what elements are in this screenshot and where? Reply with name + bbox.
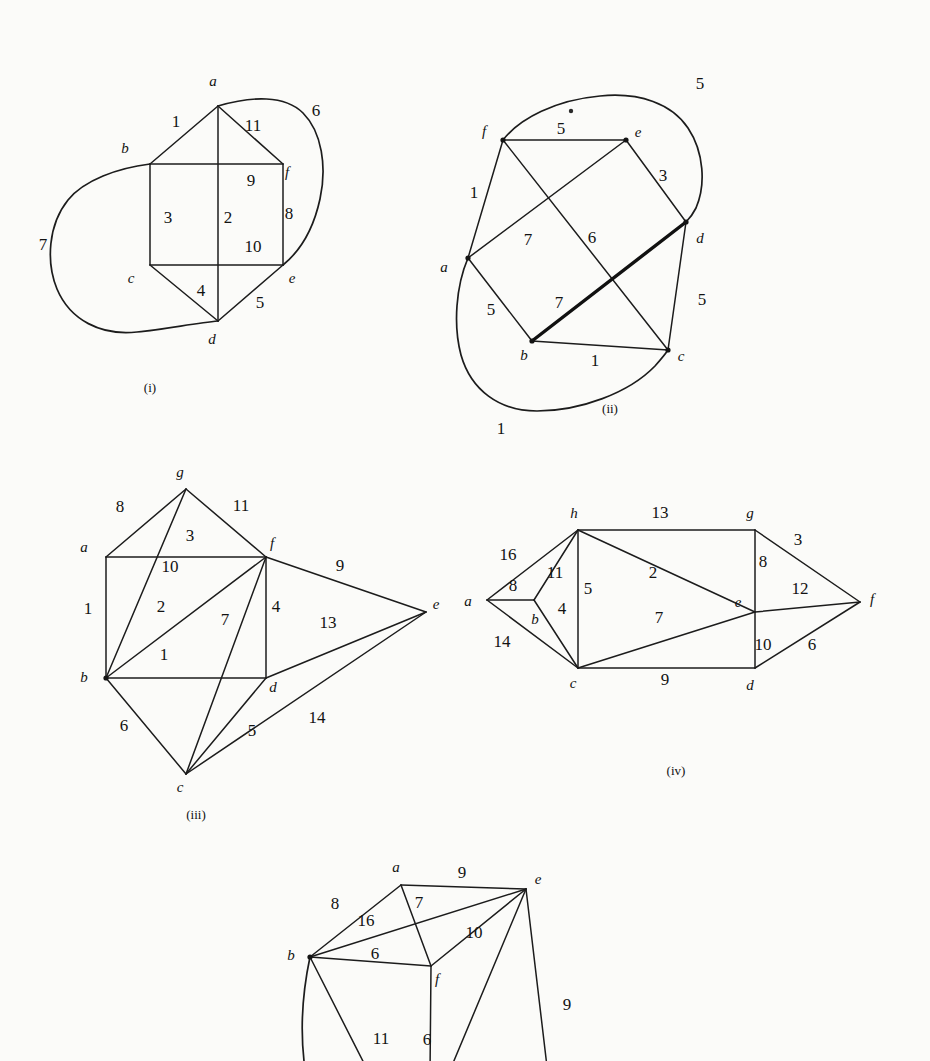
edge-v-ex3 — [526, 889, 548, 1061]
edge-iii-gf — [186, 489, 266, 557]
edge-iii-fe — [266, 557, 426, 612]
edge-weight-iii-ce: 14 — [309, 708, 327, 727]
edge-i-cd — [150, 265, 218, 321]
vertex-label-ii-e: e — [635, 124, 642, 140]
edge-weight-ii-fe: 5 — [557, 119, 566, 138]
edge-weight-iv-bc: 4 — [558, 599, 567, 618]
edge-weight-ii-bc: 1 — [591, 351, 600, 370]
edge-iii-fc — [186, 557, 266, 774]
vertex-label-iii-a: a — [80, 539, 88, 555]
edge-weight-i-af: 11 — [245, 116, 261, 135]
edge-ii-ab — [468, 258, 532, 341]
vertex-label-iii-f: f — [270, 535, 276, 551]
vertex-label-i-a: a — [209, 73, 217, 89]
vertex-dot-v-b — [307, 954, 312, 959]
edge-iii-gb — [106, 489, 186, 678]
edge-weight-i-ce: 10 — [245, 237, 262, 256]
edge-weight-iii-ag: 8 — [116, 497, 125, 516]
edge-weight-ii-fa: 1 — [470, 183, 479, 202]
figure-ii: 51515376751feadbc(ii) — [440, 74, 706, 438]
vertex-label-v-a: a — [392, 859, 400, 875]
edge-weight-i-bc: 3 — [164, 208, 173, 227]
figure-caption-i: (i) — [144, 380, 156, 395]
vertex-label-ii-d: d — [696, 230, 704, 246]
edge-weight-iv-df: 6 — [808, 635, 817, 654]
edge-iv-he — [578, 530, 755, 612]
edge-i-de — [218, 265, 283, 321]
edge-weight-v-fx2: 6 — [423, 1030, 432, 1049]
edge-weight-v-be: 16 — [358, 911, 375, 930]
figures-canvas: 1112931084567abcdef(i)51515376751feadbc(… — [0, 0, 930, 1061]
edge-weight-i-bd: 7 — [39, 235, 48, 254]
vertex-label-i-d: d — [208, 331, 216, 347]
edge-ii-de — [626, 140, 686, 222]
vertex-label-i-b: b — [121, 140, 129, 156]
edge-weight-iv-he: 2 — [649, 563, 658, 582]
edge-weight-i-ae: 6 — [312, 101, 321, 120]
vertex-label-v-f: f — [435, 971, 441, 987]
figure-iii: 811103121479136514gafbdce(iii) — [80, 464, 439, 822]
vertex-label-iii-d: d — [269, 679, 277, 695]
edge-ii-bd — [532, 222, 686, 341]
edge-iv-ef — [755, 602, 860, 612]
edge-weight-iii-fc: 7 — [221, 610, 230, 629]
figure-i: 1112931084567abcdef(i) — [39, 73, 323, 395]
vertex-label-v-b: b — [287, 947, 295, 963]
edge-weight-iii-bc: 6 — [120, 716, 129, 735]
vertex-label-ii-c: c — [678, 348, 685, 364]
vertex-label-i-c: c — [128, 270, 135, 286]
edge-weight-ii-fc: 6 — [588, 228, 597, 247]
edge-iv-ce — [578, 612, 755, 668]
edge-weight-ii-bd: 7 — [555, 293, 564, 312]
edge-weight-v-af: 7 — [415, 893, 424, 912]
ink-speck-ii — [569, 109, 573, 113]
vertex-label-iii-e: e — [433, 596, 440, 612]
vertex-dot-ii-e — [623, 137, 628, 142]
vertex-label-iv-c: c — [570, 675, 577, 691]
edge-weight-iv-ce: 7 — [655, 608, 664, 627]
edge-weight-ii-ac: 1 — [497, 419, 506, 438]
edge-iii-ce — [186, 612, 426, 774]
vertex-label-ii-b: b — [520, 347, 528, 363]
edge-i-bd — [50, 164, 218, 333]
vertex-label-v-e: e — [535, 871, 542, 887]
vertex-label-ii-f: f — [482, 123, 488, 139]
edge-ii-ac — [457, 258, 668, 411]
vertex-label-iv-e: e — [735, 594, 742, 610]
edge-weight-iv-ac: 14 — [494, 632, 512, 651]
figure-caption-ii: (ii) — [602, 401, 618, 416]
edge-weight-iii-bd: 1 — [160, 645, 169, 664]
edge-weight-iii-de: 13 — [320, 613, 337, 632]
vertex-dot-ii-d — [683, 219, 688, 224]
edge-iv-ah — [487, 530, 578, 600]
vertex-label-iv-h: h — [570, 505, 578, 521]
edge-weight-iii-fd: 4 — [272, 597, 281, 616]
edge-i-ba — [150, 106, 218, 164]
edge-ii-bc — [532, 341, 668, 350]
edge-weight-iv-ah: 16 — [500, 545, 517, 564]
vertex-label-iii-c: c — [177, 779, 184, 795]
figure-caption-iii: (iii) — [186, 807, 206, 822]
edge-weight-iii-cd: 5 — [248, 721, 257, 740]
edge-weight-i-ba: 1 — [172, 112, 181, 131]
vertex-label-iv-d: d — [746, 677, 754, 693]
edge-v-ae — [401, 885, 526, 889]
edge-weight-iv-ed: 10 — [755, 635, 772, 654]
edge-weight-iv-ge: 8 — [759, 552, 768, 571]
edge-weight-v-fe: 10 — [466, 923, 483, 942]
edge-i-ae — [218, 99, 323, 265]
edge-weight-v-ba: 8 — [331, 894, 340, 913]
edge-weight-iv-bh: 11 — [547, 563, 563, 582]
edge-weight-iii-gb: 10 — [162, 557, 179, 576]
edge-weight-ii-de: 3 — [659, 166, 668, 185]
vertex-dot-ii-a — [465, 255, 470, 260]
edge-weight-i-cd: 4 — [197, 281, 206, 300]
figure-v: 891671061169aebf — [287, 859, 571, 1061]
edge-v-ex4 — [448, 889, 526, 1061]
edge-weight-ii-fd: 5 — [696, 74, 705, 93]
edge-ii-cd — [668, 222, 686, 350]
edge-weight-i-de: 5 — [256, 293, 265, 312]
edge-iii-bf — [106, 557, 266, 678]
edge-weight-i-bf: 9 — [247, 171, 256, 190]
vertex-dot-ii-c — [665, 347, 670, 352]
